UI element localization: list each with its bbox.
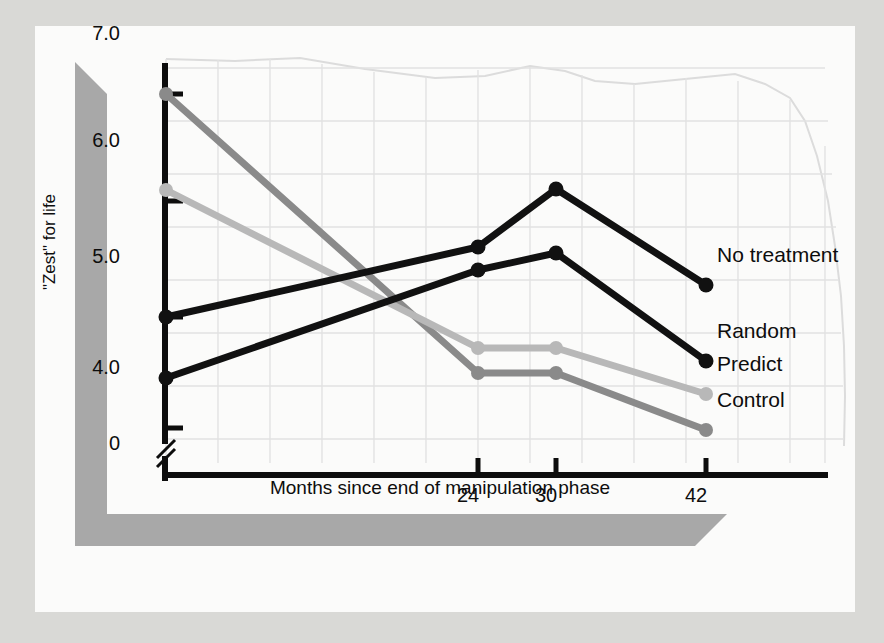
scan-background: 7.0 6.0 5.0 4.0 0 24 30 42 "Zest" for li… [0,0,884,643]
y-axis-title: "Zest" for life [40,162,60,322]
legend-label-control: Control [717,388,785,412]
y-tick-label-6: 6.0 [65,129,120,152]
legend-label-predict: Predict [717,352,782,376]
x-axis-title: Months since end of manipulation phase [160,477,720,499]
y-tick-label-7: 7.0 [65,22,120,45]
legend-label-random: Random [717,319,796,343]
y-tick-label-0: 0 [65,432,120,455]
y-tick-label-5: 5.0 [65,245,120,268]
series-random [159,246,714,386]
series-control [159,87,713,437]
legend-label-no-treatment: No treatment [717,243,838,267]
series-predict [159,183,713,401]
axis-lines [165,66,825,478]
y-tick-label-4: 4.0 [65,356,120,379]
